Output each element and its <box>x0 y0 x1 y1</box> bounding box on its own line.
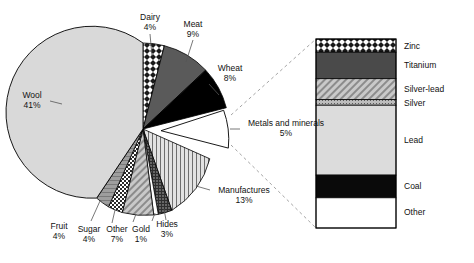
leader-fruit <box>91 201 100 221</box>
pie-label-manufactures: Manufactures 13% <box>208 185 280 205</box>
chart-figure: Dairy 4% Meat 9% Wheat 8% Metals and min… <box>0 0 474 263</box>
pie-chart <box>6 26 229 215</box>
bar-segment-coal[interactable] <box>316 175 396 198</box>
leader-sugar <box>112 210 115 223</box>
pie-label-fruit-name: Fruit <box>51 221 68 231</box>
pie-label-dairy: Dairy 4% <box>127 12 173 32</box>
pie-label-metals-and-minerals: Metals and minerals 5% <box>240 118 332 138</box>
bar-legend-other: Other <box>404 207 425 217</box>
pie-label-sugar-name: Sugar <box>78 224 101 234</box>
bar-segment-silver[interactable] <box>316 100 396 106</box>
bar-legend-titanium: Titanium <box>404 60 436 70</box>
pie-label-hides: Hides 3% <box>152 219 182 239</box>
pie-label-metals-value: 5% <box>240 128 332 138</box>
pie-label-sugar-value: 4% <box>72 234 106 244</box>
bar-legend-silver-lead: Silver-lead <box>404 84 444 94</box>
pie-label-other-name: Other <box>106 224 127 234</box>
pie-label-hides-name: Hides <box>156 219 178 229</box>
pie-label-meat: Meat 9% <box>172 19 214 39</box>
bar-segment-zinc[interactable] <box>316 39 396 52</box>
pie-label-wheat: Wheat 8% <box>208 63 252 83</box>
pie-label-hides-value: 3% <box>152 229 182 239</box>
pie-label-fruit-value: 4% <box>44 231 74 241</box>
pie-label-wheat-value: 8% <box>208 73 252 83</box>
bar-segment-titanium[interactable] <box>316 52 396 78</box>
pie-label-fruit: Fruit 4% <box>44 221 74 241</box>
pie-label-sugar: Sugar 4% <box>72 224 106 244</box>
bar-segment-lead[interactable] <box>316 105 396 175</box>
pie-label-manufactures-name: Manufactures <box>218 185 270 195</box>
pie-label-manufactures-value: 13% <box>208 195 280 205</box>
bar-segment-silver-lead[interactable] <box>316 79 396 100</box>
pie-label-wool-name: Wool <box>22 90 41 100</box>
pie-label-dairy-name: Dairy <box>140 12 160 22</box>
pie-label-metals-name: Metals and minerals <box>248 118 324 128</box>
pie-label-wheat-name: Wheat <box>218 63 243 73</box>
bar-segment-other[interactable] <box>316 198 396 228</box>
bar-legend-coal: Coal <box>404 181 421 191</box>
pie-label-meat-value: 9% <box>172 29 214 39</box>
pie-label-gold-name: Gold <box>132 224 150 234</box>
pie-label-meat-name: Meat <box>184 19 203 29</box>
pie-label-wool: Wool 41% <box>14 90 50 110</box>
pie-label-dairy-value: 4% <box>127 22 173 32</box>
bar-legend-silver: Silver <box>404 98 425 108</box>
bar-legend-lead: Lead <box>404 135 423 145</box>
bar-legend-zinc: Zinc <box>404 41 420 51</box>
pie-label-wool-value: 41% <box>14 100 50 110</box>
